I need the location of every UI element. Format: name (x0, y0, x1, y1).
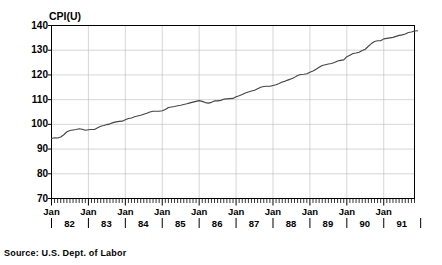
x-tick-label-year: 86 (212, 218, 223, 229)
x-tick-label-jan: Jan (376, 206, 392, 217)
x-tick-label-jan: Jan (43, 206, 59, 217)
source-note: Source: U.S. Dept. of Labor (4, 248, 126, 258)
x-tick-label-jan: Jan (339, 206, 355, 217)
x-tick-label-year: 84 (138, 218, 149, 229)
x-tick-label-year: 85 (175, 218, 186, 229)
x-tick-label-jan: Jan (80, 206, 96, 217)
x-tick-label-jan: Jan (265, 206, 281, 217)
x-tick-label-jan: Jan (228, 206, 244, 217)
x-tick-label-year: 82 (64, 218, 75, 229)
x-tick-label-jan: Jan (302, 206, 318, 217)
x-tick-label-year: 87 (249, 218, 260, 229)
x-tick-label-year: 88 (286, 218, 297, 229)
x-tick-label-jan: Jan (191, 206, 207, 217)
x-tick-label-year: 90 (360, 218, 371, 229)
x-tick-label-year: 83 (101, 218, 112, 229)
cpi-chart-figure: CPI(U) 708090100110120130140 Jan82Jan83J… (0, 0, 442, 265)
x-tick-label-jan: Jan (117, 206, 133, 217)
x-tick-label-year: 91 (396, 218, 407, 229)
x-tick-label-year: 89 (323, 218, 334, 229)
x-tick-labels: Jan82Jan83Jan84Jan85Jan86Jan87Jan88Jan89… (0, 0, 442, 265)
x-tick-label-jan: Jan (154, 206, 170, 217)
